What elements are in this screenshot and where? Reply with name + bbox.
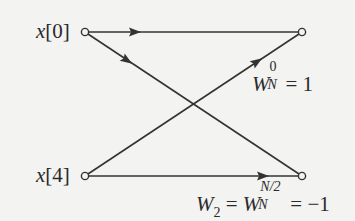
- arrow-icon-diag-up: [250, 54, 265, 68]
- twiddle-label-upper: W0N= 1: [252, 70, 313, 95]
- twiddle-value: = −1: [290, 192, 329, 216]
- node-input-0: [81, 28, 88, 35]
- twiddle-scripts: N/2N: [260, 190, 290, 211]
- input-label-x0: x[0]: [36, 21, 70, 42]
- equals-sign: =: [226, 192, 238, 216]
- twiddle-value: = 1: [286, 72, 314, 96]
- node-output-top: [298, 28, 305, 35]
- input-index: [4]: [45, 163, 70, 187]
- twiddle-subscript: N: [258, 198, 267, 212]
- input-var: x: [36, 163, 45, 187]
- twiddle-scripts: 0N: [270, 70, 286, 91]
- twiddle-lhs-base: W: [196, 192, 214, 216]
- twiddle-exponent: 0: [270, 60, 277, 74]
- twiddle-exponent: N/2: [260, 180, 280, 194]
- twiddle-label-lower: W2 = WN/2N= −1: [196, 190, 330, 215]
- twiddle-lhs-subscript: 2: [214, 205, 221, 220]
- input-var: x: [36, 19, 45, 43]
- input-label-x4: x[4]: [36, 165, 70, 186]
- twiddle-subscript: N: [268, 78, 277, 92]
- node-input-4: [81, 172, 88, 179]
- arrow-icon-diag-down: [120, 53, 135, 67]
- input-index: [0]: [45, 19, 70, 43]
- node-output-bottom: [298, 172, 305, 179]
